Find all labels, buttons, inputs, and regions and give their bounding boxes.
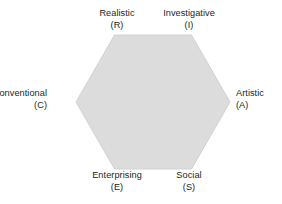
hexagon-polygon [76, 35, 230, 169]
vertex-name-realistic: Realistic [99, 8, 134, 20]
vertex-code-realistic: (R) [99, 20, 134, 32]
vertex-name-investigative: Investigative [163, 8, 215, 20]
vertex-label-social: Social (S) [176, 170, 201, 193]
vertex-name-social: Social [176, 170, 201, 182]
vertex-name-enterprising: Enterprising [92, 170, 142, 182]
vertex-code-investigative: (I) [163, 20, 215, 32]
vertex-label-realistic: Realistic (R) [99, 8, 134, 31]
vertex-code-social: (S) [176, 182, 201, 194]
vertex-code-enterprising: (E) [92, 182, 142, 194]
vertex-code-artistic: (A) [236, 100, 264, 112]
vertex-name-artistic: Artistic [236, 88, 264, 100]
vertex-label-enterprising: Enterprising (E) [92, 170, 142, 193]
vertex-label-investigative: Investigative (I) [163, 8, 215, 31]
vertex-code-conventional: (C) [0, 100, 47, 112]
vertex-name-conventional: Conventional [0, 88, 47, 100]
vertex-label-conventional: Conventional (C) [0, 88, 47, 111]
riasec-hexagon-figure: Realistic (R) Investigative (I) Conventi… [0, 0, 282, 204]
vertex-label-artistic: Artistic (A) [236, 88, 264, 111]
